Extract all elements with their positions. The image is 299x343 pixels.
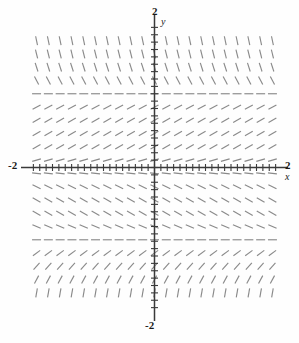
slope-tick <box>127 225 135 229</box>
slope-tick <box>213 36 215 45</box>
slope-tick <box>162 198 170 203</box>
slope-tick <box>94 63 97 72</box>
slope-tick <box>83 288 85 297</box>
slope-tick <box>139 185 147 189</box>
slope-tick <box>245 250 252 255</box>
slope-tick <box>103 118 111 123</box>
slope-tick <box>45 250 52 255</box>
slope-tick <box>116 263 122 270</box>
slope-tick <box>177 288 179 297</box>
slope-tick <box>247 63 250 72</box>
slope-tick <box>174 131 182 136</box>
slope-tick <box>34 276 38 284</box>
slope-tick <box>186 105 194 109</box>
slope-field-figure: 2 y -2 -2 2 x <box>0 0 299 343</box>
slope-tick <box>33 211 41 216</box>
slope-tick <box>115 145 123 150</box>
slope-tick <box>200 276 204 284</box>
slope-tick <box>198 211 206 216</box>
slope-tick <box>269 211 277 216</box>
slope-tick <box>56 159 65 161</box>
slope-tick <box>189 288 191 297</box>
slope-tick <box>270 276 274 284</box>
slope-tick <box>47 36 49 45</box>
slope-tick <box>248 36 250 45</box>
slope-tick <box>127 185 135 189</box>
slope-tick <box>245 145 253 150</box>
slope-tick <box>103 159 112 161</box>
slope-tick <box>198 105 206 109</box>
slope-tick <box>257 118 265 123</box>
slope-tick <box>221 131 229 136</box>
slope-tick <box>44 173 53 174</box>
slope-tick <box>268 173 277 174</box>
slope-tick <box>79 159 88 161</box>
slope-tick <box>210 118 218 123</box>
slope-tick <box>106 50 108 59</box>
x-axis-min-label: -2 <box>8 160 17 171</box>
slope-tick <box>197 159 206 161</box>
slope-tick <box>56 105 64 109</box>
slope-tick <box>162 185 170 189</box>
slope-tick <box>174 118 182 123</box>
slope-tick <box>48 288 50 297</box>
slope-tick <box>198 145 206 150</box>
slope-tick <box>139 225 147 229</box>
slope-tick <box>68 250 75 255</box>
slope-tick <box>174 105 182 109</box>
slope-tick <box>56 211 64 216</box>
slope-tick <box>174 145 182 150</box>
slope-tick <box>68 185 76 189</box>
slope-tick <box>104 263 110 270</box>
slope-tick <box>58 77 62 85</box>
slope-tick <box>71 50 73 59</box>
slope-tick <box>68 145 76 150</box>
slope-tick <box>83 36 85 45</box>
slope-tick <box>174 198 182 203</box>
slope-tick <box>162 225 170 229</box>
slope-tick <box>32 225 40 229</box>
slope-tick <box>44 118 52 123</box>
slope-tick <box>186 211 194 216</box>
slope-tick <box>269 250 276 255</box>
slope-tick <box>115 159 124 161</box>
slope-tick <box>115 211 123 216</box>
slope-tick <box>236 50 238 59</box>
slope-tick <box>47 63 50 72</box>
slope-tick <box>68 105 76 109</box>
slope-tick <box>127 118 135 123</box>
slope-tick <box>209 173 218 174</box>
slope-tick <box>174 250 181 255</box>
slope-tick <box>68 225 76 229</box>
slope-tick <box>138 159 147 161</box>
slope-tick <box>44 198 52 203</box>
slope-tick <box>245 185 253 189</box>
slope-tick <box>268 185 276 189</box>
slope-tick <box>198 198 206 203</box>
slope-tick <box>45 263 51 270</box>
slope-tick <box>260 36 262 45</box>
slope-tick <box>69 263 75 270</box>
slope-tick <box>130 288 132 297</box>
slope-tick <box>115 250 122 255</box>
slope-tick <box>174 225 182 229</box>
slope-tick <box>140 263 146 270</box>
slope-tick <box>189 50 191 59</box>
slope-tick <box>80 131 88 136</box>
slope-tick <box>79 173 88 174</box>
slope-tick <box>245 211 253 216</box>
slope-tick <box>201 288 203 297</box>
slope-tick <box>33 250 40 255</box>
slope-tick <box>235 276 239 284</box>
slope-tick <box>93 263 99 270</box>
slope-tick <box>107 288 109 297</box>
slope-tick <box>127 145 135 150</box>
slope-tick <box>67 173 76 174</box>
slope-tick <box>233 185 241 189</box>
slope-tick <box>104 250 111 255</box>
slope-tick <box>233 145 241 150</box>
slope-tick <box>257 225 265 229</box>
slope-tick <box>142 50 144 59</box>
slope-tick <box>138 173 147 174</box>
slope-tick <box>245 225 253 229</box>
